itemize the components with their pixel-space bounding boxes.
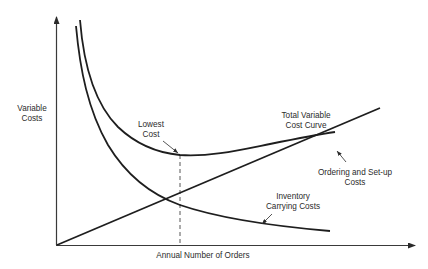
total-variable-cost-label-line1: Total Variable <box>270 111 342 121</box>
lowest-cost-pointer-arrow <box>163 141 178 153</box>
x-axis-label: Annual Number of Orders <box>148 251 258 261</box>
inventory-carrying-costs-label: Inventory Carrying Costs <box>257 192 329 212</box>
ordering-setup-costs-label: Ordering and Set-up Costs <box>311 168 399 188</box>
total-variable-cost-label: Total Variable Cost Curve <box>270 111 342 131</box>
ordering-setup-costs-label-line1: Ordering and Set-up <box>311 168 399 178</box>
lowest-cost-label: Lowest Cost <box>134 120 168 140</box>
y-axis-label-line2: Costs <box>12 114 52 124</box>
inventory-carrying-costs-label-line2: Carrying Costs <box>257 202 329 212</box>
lowest-cost-label-line1: Lowest <box>134 120 168 130</box>
ordering-setup-costs-label-line2: Costs <box>311 178 399 188</box>
inventory-pointer-arrow <box>262 214 272 224</box>
chart-canvas <box>0 0 428 269</box>
total-variable-cost-curve <box>80 20 335 155</box>
ordering-pointer-arrow <box>337 151 346 162</box>
inventory-carrying-costs-label-line1: Inventory <box>257 192 329 202</box>
lowest-cost-label-line2: Cost <box>134 130 168 140</box>
total-variable-cost-label-line2: Cost Curve <box>270 121 342 131</box>
y-axis-label: Variable Costs <box>12 104 52 124</box>
y-axis-label-line1: Variable <box>12 104 52 114</box>
